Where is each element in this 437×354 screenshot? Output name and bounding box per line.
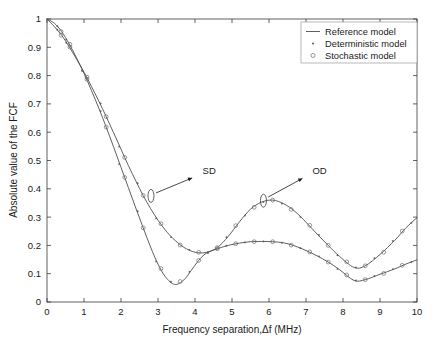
deterministic-marker: [65, 39, 67, 41]
deterministic-marker: [355, 280, 357, 282]
legend-label: Reference model: [325, 27, 396, 37]
y-tick-label: 0: [36, 296, 41, 307]
deterministic-marker: [374, 257, 376, 259]
od-annotation: OD: [260, 165, 326, 207]
y-axis-title: Absolute value of the FCF: [8, 102, 19, 218]
y-tick-label: 0.2: [28, 240, 41, 251]
x-tick-label: 10: [412, 306, 423, 317]
y-tick-label: 0.9: [28, 42, 41, 53]
y-tick-label: 0.1: [28, 268, 41, 279]
deterministic-marker: [392, 240, 394, 242]
x-axis-ticks: 012345678910: [44, 19, 422, 317]
x-tick-label: 6: [266, 306, 271, 317]
x-tick-label: 5: [229, 306, 234, 317]
annotation-arrow: [156, 178, 192, 193]
deterministic-marker: [318, 234, 320, 236]
deterministic-marker: [56, 29, 58, 31]
x-tick-label: 1: [81, 306, 86, 317]
deterministic-marker: [244, 215, 246, 217]
deterministic-marker: [56, 25, 58, 27]
deterministic-marker: [170, 281, 172, 283]
legend-label: Deterministic model: [325, 39, 407, 49]
y-tick-label: 0.4: [28, 183, 41, 194]
y-tick-label: 0.6: [28, 127, 41, 138]
y-tick-label: 0.8: [28, 70, 41, 81]
deterministic-marker: [100, 103, 102, 105]
deterministic-marker: [244, 242, 246, 244]
deterministic-marker: [281, 242, 283, 244]
deterministic-marker: [118, 146, 120, 148]
deterministic-marker: [189, 271, 191, 273]
deterministic-marker: [100, 110, 102, 112]
deterministic-marker: [337, 268, 339, 270]
x-tick-label: 3: [155, 306, 160, 317]
deterministic-marker: [65, 42, 67, 44]
deterministic-marker: [81, 69, 83, 71]
annotation-label: OD: [312, 165, 326, 176]
annotations-group: SDOD: [148, 165, 327, 207]
deterministic-marker: [300, 216, 302, 218]
deterministic-marker: [137, 182, 139, 184]
y-tick-label: 0.3: [28, 212, 41, 223]
deterministic-marker: [263, 201, 265, 203]
x-axis-title: Frequency separation,Δf (MHz): [163, 324, 302, 335]
deterministic-marker: [137, 210, 139, 212]
deterministic-marker: [355, 266, 357, 268]
deterministic-marker: [263, 241, 265, 243]
deterministic-marker: [392, 268, 394, 270]
x-tick-label: 7: [303, 306, 308, 317]
legend-item[interactable]: Deterministic model: [312, 39, 407, 49]
deterministic-marker: [118, 163, 120, 165]
deterministic-marker: [318, 255, 320, 257]
deterministic-marker: [189, 249, 191, 251]
deterministic-marker: [170, 236, 172, 238]
x-tick-label: 0: [44, 306, 49, 317]
annotation-arrow: [268, 178, 302, 197]
chart-svg: 012345678910 00.10.20.30.40.50.60.70.80.…: [0, 0, 437, 354]
deterministic-marker: [411, 261, 413, 263]
y-tick-label: 0.5: [28, 155, 41, 166]
deterministic-marker: [281, 203, 283, 205]
y-tick-label: 0.7: [28, 98, 41, 109]
x-tick-label: 8: [340, 306, 345, 317]
annotation-ellipse: [148, 189, 154, 202]
deterministic-marker: [300, 247, 302, 249]
deterministic-marker: [411, 222, 413, 224]
x-tick-label: 9: [377, 306, 382, 317]
deterministic-marker: [374, 275, 376, 277]
sd-annotation: SD: [148, 165, 216, 202]
legend-label: Stochastic model: [325, 51, 396, 61]
deterministic-marker: [226, 236, 228, 238]
deterministic-marker: [337, 254, 339, 256]
deterministic-marker: [155, 218, 157, 220]
chart-figure: 012345678910 00.10.20.30.40.50.60.70.80.…: [0, 0, 437, 354]
deterministic-marker: [155, 261, 157, 263]
data-markers-group: [56, 25, 412, 283]
deterministic-marker: [207, 251, 209, 253]
legend-dot-sample: [312, 43, 314, 45]
x-tick-label: 2: [118, 306, 123, 317]
annotation-label: SD: [203, 165, 216, 176]
legend: Reference modelDeterministic modelStocha…: [301, 22, 417, 63]
y-tick-label: 1: [36, 13, 41, 24]
deterministic-marker: [226, 245, 228, 247]
x-tick-label: 4: [192, 306, 197, 317]
